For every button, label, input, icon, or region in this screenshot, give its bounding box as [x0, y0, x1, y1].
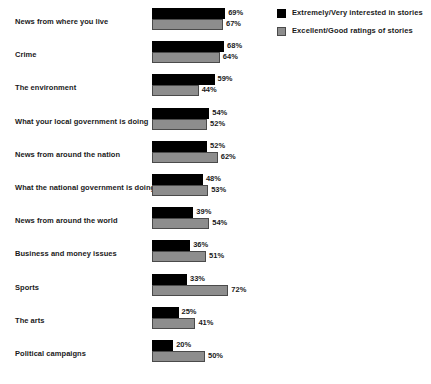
chart-row: Sports33%72% — [0, 274, 431, 307]
chart-row: News from where you live69%67% — [0, 8, 431, 41]
chart-row: Business and money issues36%51% — [0, 240, 431, 273]
bar-value-label: 68% — [227, 41, 242, 51]
bar-value-label: 41% — [198, 318, 213, 328]
chart-row: News from around the world39%54% — [0, 207, 431, 240]
bar-interested — [152, 74, 215, 85]
bar-ratings — [152, 52, 220, 63]
bar-value-label: 48% — [206, 174, 221, 184]
bar-value-label: 64% — [223, 52, 238, 62]
category-label: What your local government is doing — [15, 117, 147, 127]
bar-value-label: 62% — [221, 152, 236, 162]
bar-ratings — [152, 251, 206, 262]
bar-value-label: 25% — [182, 307, 197, 317]
bar-value-label: 72% — [231, 285, 246, 295]
bar-ratings — [152, 318, 195, 329]
chart-row: The arts25%41% — [0, 307, 431, 340]
category-label: News from around the world — [15, 216, 147, 226]
bar-interested — [152, 240, 190, 251]
bar-interested — [152, 340, 173, 351]
category-label: The environment — [15, 83, 147, 93]
bar-ratings — [152, 218, 209, 229]
bar-ratings — [152, 351, 205, 362]
category-label: Business and money issues — [15, 249, 147, 259]
bar-value-label: 69% — [228, 8, 243, 18]
bar-value-label: 54% — [212, 218, 227, 228]
chart-row: Political campaigns20%50% — [0, 340, 431, 373]
chart-row: What your local government is doing54%52… — [0, 108, 431, 141]
chart-row: What the national government is doing48%… — [0, 174, 431, 207]
bar-interested — [152, 274, 187, 285]
bar-interested — [152, 207, 193, 218]
category-label: Crime — [15, 50, 147, 60]
bar-ratings — [152, 119, 207, 130]
category-label: The arts — [15, 316, 147, 326]
bar-value-label: 20% — [176, 340, 191, 350]
bar-interested — [152, 8, 225, 19]
chart-row: The environment59%44% — [0, 74, 431, 107]
bar-value-label: 33% — [190, 274, 205, 284]
bar-interested — [152, 108, 209, 119]
bar-value-label: 52% — [210, 119, 225, 129]
bar-ratings — [152, 185, 208, 196]
bar-interested — [152, 307, 179, 318]
bar-value-label: 53% — [211, 185, 226, 195]
bar-value-label: 51% — [209, 251, 224, 261]
bar-ratings — [152, 152, 218, 163]
bar-ratings — [152, 285, 228, 296]
category-label: News from where you live — [15, 17, 147, 27]
chart-row: Crime68%64% — [0, 41, 431, 74]
bar-value-label: 44% — [202, 85, 217, 95]
bar-interested — [152, 41, 224, 52]
bar-value-label: 50% — [208, 351, 223, 361]
bar-chart: Extremely/Very interested in stories Exc… — [0, 0, 431, 384]
category-label: News from around the nation — [15, 150, 147, 160]
bar-value-label: 36% — [193, 240, 208, 250]
category-label: What the national government is doing — [15, 183, 147, 193]
chart-row: News from around the nation52%62% — [0, 141, 431, 174]
bar-value-label: 67% — [226, 19, 241, 29]
bar-ratings — [152, 85, 199, 96]
category-label: Political campaigns — [15, 349, 147, 359]
bar-value-label: 54% — [212, 108, 227, 118]
bar-value-label: 39% — [196, 207, 211, 217]
bar-interested — [152, 141, 207, 152]
bar-ratings — [152, 19, 223, 30]
bar-value-label: 52% — [210, 141, 225, 151]
bar-value-label: 59% — [218, 74, 233, 84]
bar-interested — [152, 174, 203, 185]
category-label: Sports — [15, 283, 147, 293]
